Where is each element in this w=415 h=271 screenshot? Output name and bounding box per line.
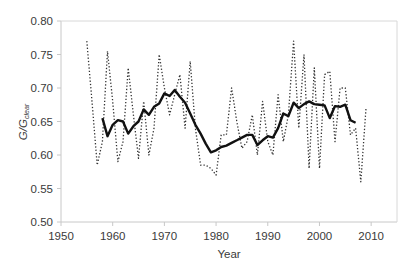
chart: 0.500.550.600.650.700.750.80 19501960197…: [0, 0, 415, 271]
y-tick-label: 0.65: [31, 116, 53, 128]
y-axis-title-subscript: clear: [23, 103, 30, 119]
x-tick-label: 1960: [100, 230, 126, 242]
y-tick-label: 0.60: [31, 149, 53, 161]
x-tick-label: 1950: [48, 230, 74, 242]
y-tick-label: 0.50: [31, 216, 53, 228]
y-tick-label: 0.55: [31, 183, 53, 195]
x-tick-label: 2000: [307, 230, 333, 242]
x-tick-label: 1970: [152, 230, 178, 242]
y-tick-label: 0.80: [31, 15, 53, 27]
y-tick-label: 0.75: [31, 49, 53, 61]
x-tick-label: 1980: [203, 230, 229, 242]
x-axis-title: Year: [217, 248, 240, 260]
y-axis-title-main: G/G: [17, 119, 29, 140]
y-tick-label: 0.70: [31, 82, 53, 94]
x-tick-label: 2010: [358, 230, 384, 242]
x-tick-label: 1990: [255, 230, 281, 242]
